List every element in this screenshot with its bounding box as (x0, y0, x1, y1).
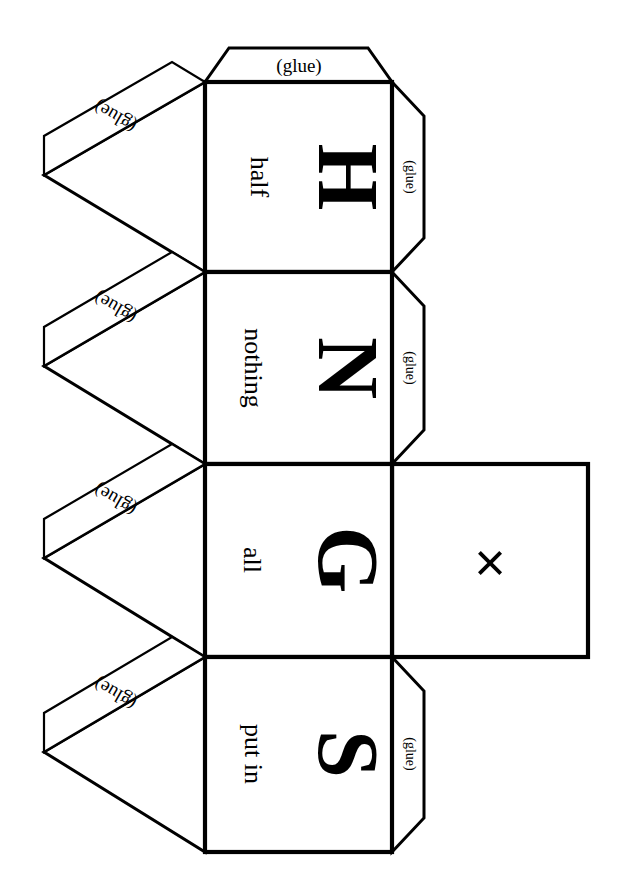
glue-flap-left-g: (glue) (44, 444, 205, 657)
face-x-panel: × (392, 464, 588, 657)
face-x-multiply-symbol: × (474, 532, 506, 592)
face-s-panel: S put in (205, 657, 396, 852)
face-h-word: half (245, 157, 274, 198)
left-glue-flap-group: (glue) (glue) (glue) (glue) (44, 62, 205, 852)
face-n-letter: N (300, 337, 396, 399)
face-s-letter: S (300, 730, 396, 778)
glue-flap-left-n: (glue) (44, 252, 205, 464)
face-g-letter: G (300, 527, 396, 594)
papercraft-net-canvas: (glue) (glue) (glue) (glue) (0, 0, 617, 896)
face-n-word: nothing (239, 328, 268, 407)
face-n-panel: N nothing (205, 272, 396, 464)
glue-flap-right-h-label: (glue) (402, 160, 418, 194)
face-h-panel: H half (205, 82, 396, 272)
face-column: H half N nothing G all S put in (205, 82, 396, 852)
glue-flap-top: (glue) (205, 48, 392, 82)
face-h-letter: H (300, 144, 396, 211)
glue-flap-right-s-label: (glue) (402, 737, 418, 771)
glue-flap-right-n-label: (glue) (402, 351, 418, 385)
glue-flap-left-h: (glue) (44, 62, 205, 272)
face-g-word: all (238, 547, 267, 573)
face-s-word: put in (239, 724, 268, 784)
glue-flap-top-label: (glue) (276, 55, 321, 77)
glue-flap-left-s: (glue) (44, 637, 205, 852)
net-diagram: (glue) (glue) (glue) (glue) (0, 0, 617, 896)
face-g-panel: G all (205, 464, 396, 657)
